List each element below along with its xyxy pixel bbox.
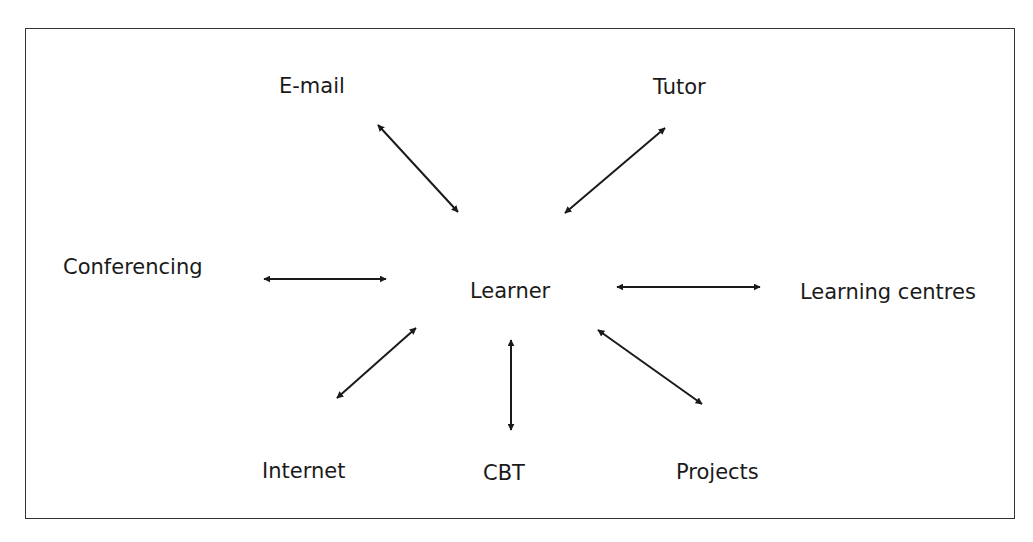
node-cbt: CBT [483,463,525,484]
arrow-tutor [565,128,665,213]
arrow-email [378,125,458,212]
node-learning-centres: Learning centres [800,282,976,303]
node-email: E-mail [279,76,345,97]
node-tutor: Tutor [653,77,706,98]
arrow-internet [337,328,416,398]
arrow-projects [598,330,702,404]
node-internet: Internet [262,461,345,482]
node-learner: Learner [470,281,550,302]
node-projects: Projects [676,462,759,483]
node-conferencing: Conferencing [63,257,203,278]
